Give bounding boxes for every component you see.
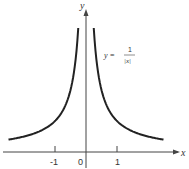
tick-label-0: 0 — [78, 157, 83, 167]
graph: x y -1 0 1 y = 1 |x| — [0, 0, 189, 169]
curve-left-branch — [9, 28, 79, 140]
y-axis-label: y — [79, 0, 85, 11]
equation-lhs: y = — [103, 51, 115, 60]
x-axis-arrow-icon — [173, 150, 180, 155]
curve-right-branch — [94, 28, 164, 140]
tick-label-1: 1 — [115, 157, 120, 167]
equation-numerator: 1 — [128, 46, 132, 53]
equation-denominator: |x| — [124, 57, 131, 65]
tick-label-neg1: -1 — [50, 157, 58, 167]
x-axis-label: x — [180, 147, 186, 158]
